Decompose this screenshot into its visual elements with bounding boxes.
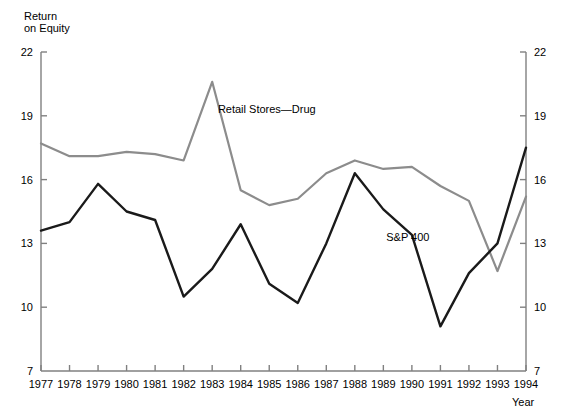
y-axis-tick-label: 13 [11, 237, 33, 249]
y-axis-tick-label: 22 [534, 46, 556, 58]
series-label-sp-400: S&P 400 [386, 231, 429, 243]
y-axis-tick-label: 22 [11, 46, 33, 58]
y-axis-tick-label: 16 [534, 174, 556, 186]
chart-container: Return on Equity Year 71013161922 710131… [0, 0, 582, 418]
axes [41, 52, 526, 371]
y-axis-ticks [41, 52, 526, 307]
y-axis-tick-label: 10 [534, 301, 556, 313]
y-axis-tick-label: 7 [11, 365, 33, 377]
y-axis-tick-label: 16 [11, 174, 33, 186]
x-axis-ticks [41, 365, 526, 371]
data-series-lines [41, 82, 526, 327]
y-axis-tick-label: 19 [534, 110, 556, 122]
y-axis-tick-label: 7 [534, 365, 556, 377]
x-axis-tick-label: 1994 [509, 378, 543, 390]
y-axis-tick-label: 10 [11, 301, 33, 313]
plot-area [0, 0, 582, 418]
series-label-retail-stores-drug: Retail Stores—Drug [218, 103, 316, 115]
y-axis-tick-label: 19 [11, 110, 33, 122]
series-line-sp-400 [41, 148, 526, 327]
y-axis-tick-label: 13 [534, 237, 556, 249]
